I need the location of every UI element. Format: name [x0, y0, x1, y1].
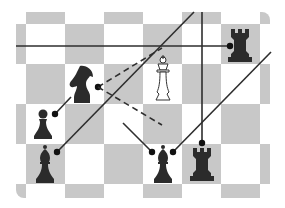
line-endpoint-dot: [52, 111, 58, 117]
line-endpoint-dot: [54, 149, 60, 155]
black-pawn-icon: [34, 110, 52, 140]
line-endpoint-dot: [199, 140, 205, 146]
chess-pieces: [34, 29, 252, 183]
black-bishop-left-icon: [36, 145, 54, 183]
bishop-center-left-diagonal: [123, 123, 152, 152]
black-knight-icon: [70, 66, 93, 103]
bishop-center-right-diagonal: [173, 52, 271, 152]
line-endpoint-dot: [227, 43, 233, 49]
white-king-icon: [156, 55, 170, 100]
pawn-attack-line: [55, 97, 71, 114]
diagram-overlay: [0, 0, 285, 208]
black-bishop-center-icon: [154, 145, 172, 183]
knight-dashed-down: [98, 87, 162, 125]
knight-dashed-up: [98, 48, 162, 87]
black-rook-bottom-icon: [190, 148, 214, 181]
line-endpoint-dot: [170, 149, 176, 155]
line-endpoint-dot: [149, 149, 155, 155]
